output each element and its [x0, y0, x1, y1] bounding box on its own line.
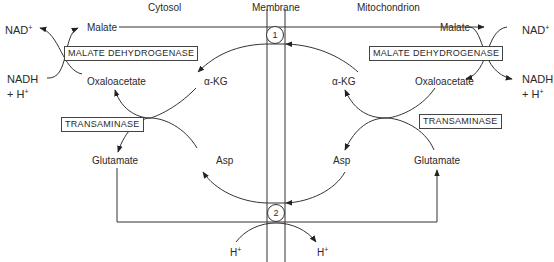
mit-h-plus: + H+	[522, 86, 544, 100]
cyt-malate: Malate	[87, 22, 117, 33]
region-mitochondrion: Mitochondrion	[357, 2, 420, 13]
cyt-h-plus: + H+	[7, 86, 29, 100]
mit-transaminase: TRANSAMINASE	[419, 114, 502, 129]
region-cytosol: Cytosol	[148, 2, 181, 13]
region-membrane: Membrane	[252, 2, 300, 13]
cyt-nad-label: NAD+	[5, 22, 32, 36]
mit-h-ion: H+	[317, 244, 328, 258]
cyt-asp: Asp	[216, 155, 233, 166]
cyt-nadh-label: NADH	[7, 74, 38, 85]
cyt-akg: α-KG	[204, 76, 228, 87]
mit-nadh-label: NADH	[522, 74, 553, 85]
mit-asp: Asp	[333, 155, 350, 166]
cyt-glutamate: Glutamate	[92, 155, 138, 166]
cyt-h-ion: H+	[230, 244, 241, 258]
cyt-oxaloacetate: Oxaloacetate	[87, 76, 146, 87]
transporter-1: 1	[266, 26, 284, 44]
mit-glutamate: Glutamate	[414, 155, 460, 166]
proton-arc	[236, 223, 316, 242]
mit-malate: Malate	[440, 22, 470, 33]
mit-oxaloacetate: Oxaloacetate	[415, 76, 474, 87]
cyt-transaminase: TRANSAMINASE	[61, 117, 144, 132]
mit-akg: α-KG	[332, 76, 356, 87]
cyt-malate-dehydrogenase: MALATE DEHYDROGENASE	[64, 46, 198, 61]
cyt-akg-to-oxaloacetate	[115, 88, 196, 118]
mit-nad-label: NAD+	[522, 22, 549, 36]
mit-malate-dehydrogenase: MALATE DEHYDROGENASE	[369, 46, 503, 61]
transporter-2: 2	[267, 204, 285, 222]
